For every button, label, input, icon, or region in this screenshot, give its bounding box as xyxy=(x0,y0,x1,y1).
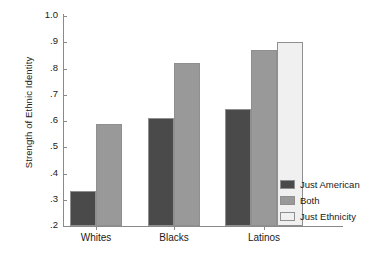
legend-swatch xyxy=(280,212,295,221)
legend-label: Just American xyxy=(300,179,360,190)
y-tick-mark xyxy=(63,16,67,17)
x-tick-mark xyxy=(96,226,97,230)
y-tick-label: .3 xyxy=(20,193,58,204)
x-tick-mark xyxy=(174,226,175,230)
y-tick-label: .2 xyxy=(20,219,58,230)
bar xyxy=(70,191,96,226)
y-tick-mark xyxy=(63,226,67,227)
legend-swatch xyxy=(280,180,295,189)
legend-label: Both xyxy=(300,195,320,206)
bar xyxy=(174,63,200,226)
bar xyxy=(225,109,251,226)
y-tick-label: .6 xyxy=(20,114,58,125)
y-tick-mark xyxy=(63,69,67,70)
y-tick-label: .9 xyxy=(20,35,58,46)
legend-swatch xyxy=(280,196,295,205)
y-tick-label: .5 xyxy=(20,140,58,151)
y-tick-mark xyxy=(63,95,67,96)
x-axis-label-blacks: Blacks xyxy=(124,232,224,243)
y-tick-label: .7 xyxy=(20,88,58,99)
legend-item: Just Ethnicity xyxy=(280,208,360,224)
x-axis-line xyxy=(63,226,343,227)
legend-item: Just American xyxy=(280,176,360,192)
x-axis-label-latinos: Latinos xyxy=(214,232,314,243)
bar xyxy=(251,50,277,226)
y-tick-mark xyxy=(63,42,67,43)
y-tick-mark xyxy=(63,121,67,122)
y-tick-label: .4 xyxy=(20,167,58,178)
y-tick-mark xyxy=(63,200,67,201)
legend-label: Just Ethnicity xyxy=(300,211,356,222)
y-tick-mark xyxy=(63,147,67,148)
bar-chart: Strength of Ethnic Identity 1.0.9.8.7.6.… xyxy=(0,0,380,262)
y-tick-mark xyxy=(63,174,67,175)
legend-item: Both xyxy=(280,192,360,208)
legend: Just AmericanBothJust Ethnicity xyxy=(280,176,360,224)
y-tick-label: 1.0 xyxy=(20,9,58,20)
bar xyxy=(96,124,122,226)
bar xyxy=(148,118,174,226)
x-tick-mark xyxy=(264,226,265,230)
y-tick-label: .8 xyxy=(20,62,58,73)
